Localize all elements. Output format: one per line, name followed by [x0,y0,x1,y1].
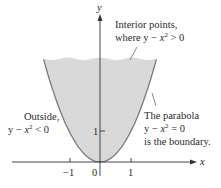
y-axis-arrow-icon [98,14,103,21]
outside-label-line2: y − x2 < 0 [8,123,49,135]
boundary-label-line3: is the boundary. [144,136,211,147]
outside-label-line1: Outside, [24,111,59,122]
parabola-diagram: x y −1 0 1 1 Interior points, where y − … [0,0,221,188]
y-tick-label-1: 1 [93,126,98,137]
x-axis-label: x [199,156,205,167]
boundary-label-line2: y − x2 = 0 [144,122,185,134]
interior-label-line1: Interior points, [115,19,177,30]
x-tick-label-1: 1 [128,167,133,178]
boundary-label-line1: The parabola [144,110,199,121]
x-axis-arrow-icon [190,160,197,165]
x-tick-label-neg1: −1 [63,167,74,178]
boundary-pointer [152,93,156,106]
interior-label-line2: where y − x2 > 0 [115,31,184,43]
x-tick-label-0: 0 [92,167,97,178]
y-axis-label: y [96,2,102,13]
